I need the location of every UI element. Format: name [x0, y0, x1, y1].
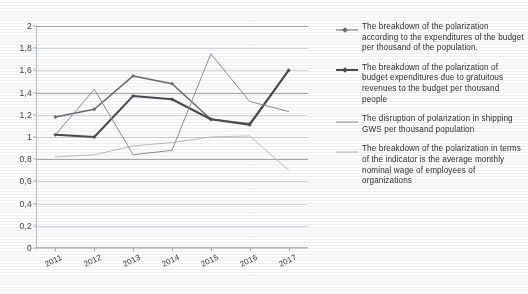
- series-path: [55, 136, 288, 170]
- legend-swatch-icon: [336, 116, 358, 127]
- y-axis-tick-label: 1,2: [20, 110, 32, 120]
- y-axis-tick-label: 0,4: [20, 199, 32, 209]
- y-axis-tick-label: 1,6: [20, 65, 32, 75]
- legend-swatch-icon: [336, 24, 358, 35]
- legend-label: The breakdown of the polarization in ter…: [362, 144, 524, 186]
- x-axis-tick-label: 2013: [121, 253, 142, 269]
- y-axis-tick-label: 0: [27, 243, 32, 253]
- x-axis-tick-label: 2011: [44, 253, 64, 269]
- chart-legend: The breakdown of the polarization accord…: [336, 22, 524, 196]
- legend-line-icon: [336, 151, 358, 152]
- legend-item-3[interactable]: The disruption of polarization in shippi…: [336, 114, 524, 135]
- legend-label: The breakdown of the polarization accord…: [362, 22, 524, 54]
- series-line-2: [54, 69, 291, 139]
- x-axis-tick-label: 2012: [83, 253, 104, 269]
- series-path: [55, 70, 288, 123]
- legend-diamond-marker-icon: [342, 27, 348, 33]
- y-axis-tick-label: 0,6: [20, 176, 32, 186]
- y-axis-tick-label: 0,8: [20, 154, 32, 164]
- legend-label: The disruption of polarization in shippi…: [362, 114, 524, 135]
- y-axis-tick-label: 1: [27, 132, 32, 142]
- y-axis-tick-label: 0,2: [20, 221, 32, 231]
- y-axis-tick-label: 2: [27, 21, 32, 31]
- legend-item-4[interactable]: The breakdown of the polarization in ter…: [336, 144, 524, 186]
- line-chart: 00,20,40,60,811,21,41,61,82 201120122013…: [0, 0, 330, 294]
- legend-item-2[interactable]: The breakdown of the polarization of bud…: [336, 63, 524, 105]
- legend-item-1[interactable]: The breakdown of the polarization accord…: [336, 22, 524, 54]
- chart-page: 00,20,40,60,811,21,41,61,82 201120122013…: [0, 0, 528, 294]
- x-axis-tick-label: 2014: [160, 253, 181, 269]
- series-layer: [36, 26, 308, 248]
- y-axis-tick-label: 1,8: [20, 43, 32, 53]
- x-axis-tick-label: 2017: [277, 253, 298, 269]
- legend-swatch-icon: [336, 65, 358, 76]
- plot-area: 00,20,40,60,811,21,41,61,82 201120122013…: [36, 26, 308, 248]
- legend-line-icon: [336, 121, 358, 122]
- data-point-marker: [54, 115, 58, 119]
- y-axis-tick-label: 1,4: [20, 88, 32, 98]
- series-line-4: [55, 136, 288, 170]
- series-path: [55, 70, 288, 137]
- x-axis-tick-label: 2016: [238, 253, 259, 269]
- x-axis-tick-label: 2015: [199, 253, 220, 269]
- legend-label: The breakdown of the polarization of bud…: [362, 63, 524, 105]
- legend-swatch-icon: [336, 146, 358, 157]
- legend-diamond-marker-icon: [342, 67, 348, 73]
